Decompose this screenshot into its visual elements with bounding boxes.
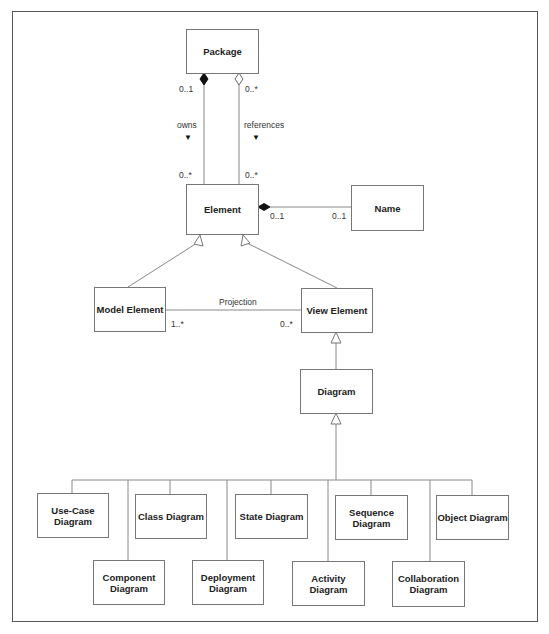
object-diagram-label: Object Diagram: [437, 512, 507, 523]
owns-direction-icon: ▼: [184, 133, 192, 142]
references-element-multiplicity: 0..*: [245, 170, 258, 180]
deployment-diagram-box: Deployment Diagram: [192, 560, 264, 605]
name-label: Name: [375, 203, 401, 214]
view-element-generalization-line: [247, 243, 337, 288]
component-diagram-box: Component Diagram: [93, 560, 165, 605]
model-element-class-box: Model Element: [94, 287, 166, 332]
model-element-label: Model Element: [96, 304, 163, 315]
references-package-multiplicity: 0..*: [245, 84, 258, 94]
generalization-triangle-icon: [331, 413, 341, 424]
package-class-box: Package: [186, 29, 259, 74]
owns-element-multiplicity: 0..*: [179, 170, 192, 180]
object-diagram-box: Object Diagram: [436, 495, 509, 540]
diagram-class-box: Diagram: [300, 369, 373, 414]
diagram-label: Diagram: [317, 386, 355, 397]
composition-diamond-icon: [258, 204, 270, 211]
component-diagram-label: Component Diagram: [102, 572, 156, 594]
owns-label: owns: [177, 120, 197, 130]
element-class-box: Element: [186, 184, 259, 235]
element-name-element-multiplicity: 0..1: [270, 211, 284, 221]
name-class-box: Name: [351, 185, 424, 231]
package-label: Package: [203, 46, 242, 57]
projection-model-multiplicity: 1..*: [171, 319, 184, 329]
activity-diagram-box: Activity Diagram: [292, 561, 365, 606]
projection-view-multiplicity: 0..*: [280, 319, 293, 329]
model-element-generalization-line: [128, 243, 197, 287]
use-case-diagram-label: Use-Case Diagram: [48, 505, 98, 527]
sequence-diagram-label: Sequence Diagram: [348, 507, 395, 529]
generalization-triangle-icon: [194, 235, 203, 246]
collaboration-diagram-label: Collaboration Diagram: [397, 573, 460, 595]
owns-package-multiplicity: 0..1: [179, 84, 193, 94]
deployment-diagram-label: Deployment Diagram: [201, 572, 255, 594]
collaboration-diagram-box: Collaboration Diagram: [392, 561, 465, 607]
element-label: Element: [204, 204, 241, 215]
projection-label: Projection: [219, 297, 257, 307]
references-label: references: [244, 120, 284, 130]
class-diagram-box: Class Diagram: [135, 494, 207, 539]
view-element-class-box: View Element: [301, 288, 373, 333]
element-name-name-multiplicity: 0..1: [332, 211, 346, 221]
references-direction-icon: ▼: [252, 133, 260, 142]
aggregation-diamond-icon: [235, 73, 243, 85]
view-element-label: View Element: [306, 305, 367, 316]
sequence-diagram-box: Sequence Diagram: [335, 495, 408, 540]
state-diagram-label: State Diagram: [240, 511, 304, 522]
state-diagram-box: State Diagram: [235, 494, 308, 539]
composition-diamond-icon: [200, 73, 208, 85]
class-diagram-label: Class Diagram: [138, 511, 204, 522]
use-case-diagram-box: Use-Case Diagram: [37, 493, 109, 538]
activity-diagram-label: Activity Diagram: [293, 573, 364, 595]
generalization-triangle-icon: [331, 332, 341, 343]
